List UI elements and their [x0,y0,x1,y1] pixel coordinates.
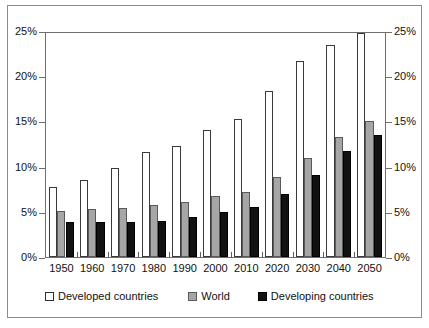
x-category-separator [169,252,170,258]
bar-developed-1960 [80,180,88,257]
bar-developed-1950 [49,187,57,258]
bar-developed-2000 [203,130,211,257]
x-category-separator [293,252,294,258]
bar-developing-2000 [220,212,228,257]
y-tick-right [386,122,392,123]
bar-world-1970 [119,208,127,257]
x-category-separator [262,252,263,258]
bar-group [46,33,77,257]
x-category-separator [323,252,324,258]
x-tick-label-1970: 1970 [108,262,139,274]
bar-group [323,33,354,257]
bars-layer [46,33,385,257]
bar-world-2020 [273,177,281,257]
bar-developing-2020 [281,194,289,257]
x-category-separator [77,252,78,258]
legend-label-developing: Developing countries [271,290,374,302]
x-category-separator [231,252,232,258]
y-tick-label-right: 25% [394,26,428,37]
bar-world-1960 [88,209,96,257]
x-category-separator [200,252,201,258]
bar-developed-1990 [172,146,180,257]
bar-world-1950 [57,211,65,257]
x-tick-label-2010: 2010 [231,262,262,274]
legend-label-world: World [201,290,230,302]
bar-world-1990 [181,202,189,257]
legend-item-world: World [188,290,230,302]
x-category-separator [108,252,109,258]
y-tick-label-left: 25% [3,26,37,37]
y-tick-left [39,258,45,259]
y-tick-label-left: 20% [3,71,37,82]
y-tick-label-right: 0% [394,252,428,263]
bar-developed-2010 [234,119,242,257]
bar-developing-2010 [250,207,258,257]
x-tick-label-2020: 2020 [262,262,293,274]
y-tick-label-left: 10% [3,162,37,173]
x-category-separator [354,252,355,258]
bar-developing-1980 [158,221,166,257]
x-tick-label-1980: 1980 [138,262,169,274]
x-category-separator [138,252,139,258]
bar-developing-1970 [127,222,135,257]
y-tick-label-left: 5% [3,207,37,218]
y-tick-label-left: 15% [3,116,37,127]
bar-developed-2050 [357,33,365,257]
bar-developing-2040 [343,151,351,257]
bar-developing-1990 [189,217,197,257]
legend-label-developed: Developed countries [58,290,158,302]
chart-legend: Developed countries World Developing cou… [45,288,390,304]
bar-world-2050 [365,121,373,257]
bar-developing-2030 [312,175,320,257]
bar-world-1980 [150,205,158,257]
bar-developed-1980 [142,152,150,257]
y-tick-label-right: 20% [394,71,428,82]
bar-group [108,33,139,257]
x-tick-label-2050: 2050 [354,262,385,274]
bar-group [354,33,385,257]
bar-group [138,33,169,257]
bar-developed-2040 [326,45,334,257]
bar-world-2010 [242,192,250,257]
bar-developing-2050 [374,135,382,257]
legend-item-developing: Developing countries [258,290,374,302]
white-square-icon [45,292,54,301]
bar-developing-1960 [96,222,104,257]
bar-developed-2020 [265,91,273,257]
legend-item-developed: Developed countries [45,290,158,302]
y-tick-label-left: 0% [3,252,37,263]
y-tick-right [386,32,392,33]
bar-group [293,33,324,257]
y-tick-right [386,213,392,214]
x-tick-label-1950: 1950 [46,262,77,274]
bar-world-2040 [335,137,343,257]
y-tick-label-right: 5% [394,207,428,218]
bar-developed-2030 [296,61,304,257]
bar-developing-1950 [66,222,74,257]
x-tick-label-1960: 1960 [77,262,108,274]
bar-world-2000 [211,196,219,257]
bar-developed-1970 [111,168,119,257]
y-tick-label-right: 10% [394,162,428,173]
black-square-icon [258,292,267,301]
x-tick-label-2040: 2040 [323,262,354,274]
x-tick-label-2000: 2000 [200,262,231,274]
y-tick-right [386,258,392,259]
y-tick-label-right: 15% [394,116,428,127]
chart-figure: 0%5%10%15%20%25% 0%5%10%15%20%25% 195019… [0,0,429,328]
y-tick-right [386,168,392,169]
x-tick-label-1990: 1990 [169,262,200,274]
bar-group [262,33,293,257]
y-tick-right [386,77,392,78]
bar-group [169,33,200,257]
bar-world-2030 [304,158,312,257]
gray-square-icon [188,292,197,301]
bar-group [200,33,231,257]
x-tick-label-2030: 2030 [293,262,324,274]
bar-group [77,33,108,257]
bar-group [231,33,262,257]
